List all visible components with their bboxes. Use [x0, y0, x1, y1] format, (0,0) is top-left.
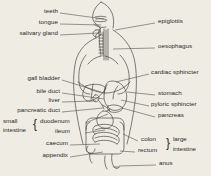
- label-cardiac-sphincter: cardiac sphincter: [151, 69, 199, 76]
- skull-back: [101, 2, 114, 28]
- label-small-intestine-line1: small: [3, 118, 17, 125]
- torso-left-outline: [74, 38, 96, 144]
- label-stomach: stomach: [158, 90, 182, 97]
- leader-duodenum: [85, 114, 108, 123]
- leader-stomach: [127, 92, 155, 95]
- label-bile-duct: bile duct: [0, 88, 60, 95]
- label-epiglottis: epiglottis: [158, 18, 183, 25]
- ascending-colon: [86, 122, 90, 130]
- liver-shape: [83, 84, 106, 101]
- descending-colon: [120, 122, 124, 130]
- label-gall-bladder: gall bladder: [0, 75, 60, 82]
- appendix-shape: [90, 153, 92, 163]
- label-teeth: teeth: [0, 8, 58, 15]
- leader-liver: [62, 101, 96, 102]
- leader-colon: [123, 134, 138, 141]
- stomach-inner-curve: [113, 86, 118, 99]
- leader-pancreatic-duct: [62, 108, 103, 112]
- label-pancreas: pancreas: [158, 112, 184, 119]
- jawline: [94, 24, 106, 27]
- label-oesophagus: oesophagus: [158, 43, 192, 50]
- label-pyloric-sphincter: pyloric sphincter: [151, 101, 197, 108]
- label-rectum: rectum: [138, 147, 157, 154]
- brace-large-intestine: }: [166, 140, 170, 146]
- label-appendix: appendix: [0, 152, 68, 159]
- upper-teeth: [95, 16, 106, 17]
- ileum-coils: [95, 124, 117, 144]
- label-duodenum: duodenum: [40, 118, 70, 125]
- leader-oesophagus: [113, 48, 155, 49]
- duodenum-loop: [97, 111, 113, 128]
- label-small-intestine-line2: intestine: [3, 127, 26, 134]
- rectum-shape: [112, 154, 119, 169]
- label-colon: colon: [141, 136, 156, 143]
- lower-teeth: [95, 21, 106, 22]
- leader-caecum: [70, 144, 100, 145]
- leader-epiglottis: [115, 23, 155, 30]
- leader-cardiac-sphincter: [116, 74, 149, 82]
- label-ileum: ileum: [55, 128, 70, 135]
- label-tongue: tongue: [0, 19, 58, 26]
- leader-anus: [119, 165, 156, 166]
- leader-teeth: [60, 13, 104, 19]
- label-large-intestine-line2: intestine: [173, 146, 196, 153]
- caecum-shape: [87, 146, 95, 153]
- label-salivary-gland: salivary gland: [0, 30, 58, 37]
- brace-small-intestine: {: [33, 121, 37, 127]
- bile-duct-line: [98, 100, 104, 109]
- label-large-intestine-line1: large: [173, 136, 187, 143]
- right-bronchus: [105, 56, 118, 64]
- label-caecum: caecum: [0, 140, 68, 147]
- label-liver: liver: [0, 97, 60, 104]
- right-lung: [118, 55, 129, 94]
- left-bronchus: [88, 56, 101, 64]
- face-profile: [93, 2, 101, 38]
- pelvic-outline: [105, 156, 107, 169]
- label-anus: anus: [159, 160, 173, 167]
- leader-rectum: [120, 151, 135, 152]
- label-pancreatic-duct: pancreatic duct: [0, 107, 60, 114]
- leader-pancreas: [122, 108, 155, 117]
- digestive-system-diagram: teeth tongue salivary gland gall bladder…: [0, 0, 211, 176]
- stomach-body: [104, 81, 127, 110]
- tracheal-rings: [99, 35, 103, 53]
- leader-appendix: [70, 152, 103, 157]
